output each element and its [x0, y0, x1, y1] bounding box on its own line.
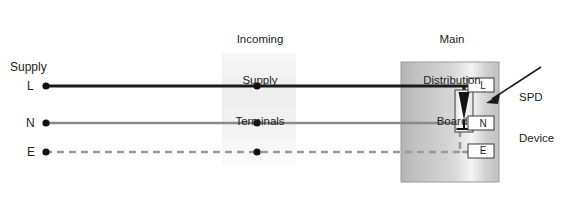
terminal-label-live: L: [472, 80, 494, 91]
incoming-label-line-1: Incoming: [215, 33, 305, 47]
live-supply-terminal-dot: [42, 82, 49, 89]
terminal-label-neutral: N: [472, 118, 494, 129]
diagram-canvas: Supply L N E Incoming Supply Terminals M…: [0, 0, 575, 198]
spd-label-line-2: Device: [519, 132, 573, 146]
spd-label-line-1: SPD: [519, 91, 573, 105]
supply-conductor-label-neutral: N: [26, 116, 35, 130]
neutral-supply-terminal-dot: [42, 119, 49, 126]
supply-conductor-label-earth: E: [27, 145, 35, 159]
incoming-supply-terminals-label: Incoming Supply Terminals: [215, 6, 305, 155]
incoming-label-line-2: Supply: [215, 74, 305, 88]
supply-conductor-label-live: L: [27, 79, 34, 93]
supply-group-label: Supply: [10, 60, 47, 74]
mdb-label-line-1: Main: [400, 33, 504, 47]
terminal-label-earth: E: [472, 145, 494, 156]
earth-supply-terminal-dot: [42, 148, 49, 155]
incoming-label-line-3: Terminals: [215, 115, 305, 129]
spd-device-label: SPD Device: [519, 64, 573, 173]
